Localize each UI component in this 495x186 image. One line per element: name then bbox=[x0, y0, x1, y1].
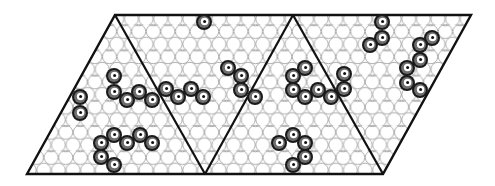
lattice-canvas bbox=[0, 0, 495, 186]
atom-icon bbox=[233, 82, 249, 98]
atom-icon bbox=[72, 89, 88, 105]
atom-icon bbox=[285, 68, 301, 84]
atom-icon bbox=[195, 89, 211, 105]
atom-icon bbox=[362, 37, 378, 53]
atom-icon bbox=[336, 66, 352, 82]
atom-icon bbox=[247, 89, 263, 105]
atom-icon bbox=[399, 60, 415, 76]
atom-icon bbox=[297, 135, 313, 151]
atom-icon bbox=[374, 14, 390, 30]
lattice-diagram bbox=[0, 0, 495, 186]
atom-icon bbox=[196, 14, 212, 30]
atom-icon bbox=[144, 92, 160, 108]
atom-icon bbox=[106, 157, 122, 173]
atom-icon bbox=[285, 157, 301, 173]
atom-icon bbox=[412, 82, 428, 98]
atom-icon bbox=[412, 37, 428, 53]
atom-icon bbox=[336, 81, 352, 97]
atom-icon bbox=[106, 68, 122, 84]
atom-icon bbox=[233, 68, 249, 84]
atom-icon bbox=[271, 135, 287, 151]
atom-icon bbox=[144, 135, 160, 151]
atom-icon bbox=[72, 105, 88, 121]
